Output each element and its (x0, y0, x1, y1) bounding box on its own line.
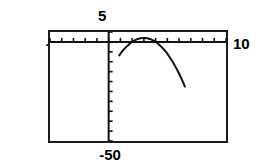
window-ymin-label: -50 (85, 147, 135, 162)
window-ymax-label: 5 (98, 8, 106, 23)
parabola-curve (119, 38, 185, 87)
window-xmax-label: 10 (233, 36, 250, 51)
y-axis (109, 32, 113, 141)
graph-viewport (48, 30, 228, 143)
calculator-graph-screen: 5 -5 10 -50 (0, 0, 257, 164)
graph-plot-area (50, 32, 226, 141)
